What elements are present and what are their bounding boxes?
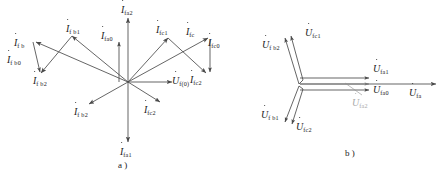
- label-ifb0-subscript: f b0: [10, 59, 21, 66]
- label-ifa1: Ifa1: [120, 147, 132, 158]
- label-uf0-subscript: f(0): [179, 80, 189, 87]
- label-ifb2-triangle-symbol: I: [33, 75, 36, 86]
- panel-a-caption: a ): [118, 160, 127, 170]
- label-ufc1-subscript: fc1: [312, 32, 321, 39]
- label-ufb1: Uf b1: [261, 110, 279, 121]
- label-ifc-symbol: I: [186, 26, 189, 37]
- label-ifb0-symbol: I: [7, 54, 10, 65]
- label-ifc1: Ifc1: [156, 25, 168, 36]
- label-ufa2-subscript: fa2: [359, 102, 368, 109]
- label-ufc2-subscript: fc2: [303, 126, 312, 133]
- phasor-dot-icon: [121, 142, 123, 144]
- phasor-dot-icon: [8, 50, 10, 52]
- phasor-dot-icon: [265, 35, 267, 37]
- label-ufa-symbol: U: [409, 87, 416, 98]
- figure-root: Ifa2 Ifa0 Ifa1 If b If b0 If b1 If b2 If…: [0, 0, 445, 181]
- panel-b-vectors: [285, 36, 436, 124]
- phasor-dot-icon: [122, 0, 124, 1]
- label-uf0: Uf(0): [172, 76, 189, 87]
- label-ifb1-symbol: I: [66, 23, 69, 34]
- label-uf0-symbol: U: [172, 75, 179, 86]
- label-ufc2-symbol: U: [296, 121, 303, 132]
- label-ufb1-subscript: f b1: [268, 114, 279, 121]
- label-ifb1: If b1: [66, 24, 80, 35]
- label-ifc2-triangle: Ifc2: [190, 75, 202, 86]
- phasor-dot-icon: [187, 22, 189, 24]
- label-ufb2: Uf b2: [262, 40, 280, 51]
- phasor-dot-icon: [376, 80, 378, 82]
- phasor-dot-icon: [308, 23, 310, 25]
- label-ifa0: Ifa0: [101, 31, 113, 42]
- vector-ifb2-lower: [89, 82, 128, 104]
- label-ifc: Ifc: [186, 27, 195, 38]
- label-ufb1-symbol: U: [261, 109, 268, 120]
- label-ifb2-triangle: If b2: [33, 76, 47, 87]
- phasor-dot-icon: [157, 20, 159, 22]
- phasor-dot-icon: [75, 102, 77, 104]
- vector-ifc2-triangle: [168, 38, 206, 73]
- label-ifb-subscript: f b: [17, 42, 24, 49]
- label-ifb0: If b0: [7, 55, 21, 66]
- vector-ifb2-triangle: [41, 36, 72, 73]
- label-ufa0: Ufa0: [373, 85, 389, 96]
- phasor-dot-icon: [67, 19, 69, 21]
- label-ifb2-lower: If b2: [74, 107, 88, 118]
- vector-ifc1: [128, 38, 168, 82]
- vector-ufc2: [292, 89, 303, 124]
- phasor-dot-icon: [355, 93, 357, 95]
- phasor-dot-icon: [34, 71, 36, 73]
- label-ufc2: Ufc2: [296, 122, 312, 133]
- phasor-dot-icon: [175, 71, 177, 73]
- label-ifb-symbol: I: [14, 37, 17, 48]
- label-ufa1-subscript: fa1: [380, 68, 389, 75]
- vector-ufb2: [285, 38, 299, 84]
- label-ifc0-symbol: I: [208, 37, 211, 48]
- label-ifc-subscript: fc: [189, 31, 194, 38]
- vector-ufc1: [291, 36, 303, 80]
- label-ifa2-subscript: fa2: [124, 9, 133, 16]
- phasor-dot-icon: [145, 100, 147, 102]
- label-ifa2-symbol: I: [121, 4, 124, 15]
- label-ufa0-symbol: U: [373, 84, 380, 95]
- label-ifb2-lower-subscript: f b2: [77, 111, 88, 118]
- label-ifc2-triangle-subscript: fc2: [193, 79, 202, 86]
- label-ifa0-subscript: fa0: [104, 35, 113, 42]
- ufa2-leader-line: [345, 83, 362, 95]
- label-ufb2-symbol: U: [262, 39, 269, 50]
- label-ufb2-subscript: f b2: [269, 44, 280, 51]
- label-ufa: Ufa: [409, 88, 421, 99]
- label-ifc0: Ifc0: [208, 38, 220, 49]
- phasor-dot-icon: [102, 26, 104, 28]
- phasor-dot-icon: [15, 33, 17, 35]
- phasor-dot-icon: [376, 59, 378, 61]
- label-ifb: If b: [14, 38, 25, 49]
- phasor-dot-icon: [299, 117, 301, 119]
- label-ifc1-symbol: I: [156, 24, 159, 35]
- vector-ifb0: [33, 42, 40, 72]
- label-ufa2: Ufa2: [352, 98, 368, 109]
- label-ifa1-symbol: I: [120, 146, 123, 157]
- label-ifc2-triangle-symbol: I: [190, 74, 193, 85]
- vector-ifb1: [72, 36, 128, 82]
- phasor-dot-icon: [209, 33, 211, 35]
- label-ifb2-triangle-subscript: f b2: [36, 80, 47, 87]
- label-ufa1-symbol: U: [373, 63, 380, 74]
- phasor-dot-icon: [264, 105, 266, 107]
- label-ufa1: Ufa1: [373, 64, 389, 75]
- label-ufa0-subscript: fa0: [380, 89, 389, 96]
- phasor-dot-icon: [412, 83, 414, 85]
- label-ufa2-symbol: U: [352, 97, 359, 108]
- vector-ufb1: [285, 86, 299, 122]
- label-ifc2-lower-symbol: I: [144, 104, 147, 115]
- label-ufa-subscript: fa: [416, 92, 421, 99]
- label-ifc2-lower-subscript: fc2: [147, 109, 156, 116]
- label-ifc2-lower: Ifc2: [144, 105, 156, 116]
- label-ufc1: Ufc1: [305, 28, 321, 39]
- label-ifb1-subscript: f b1: [69, 28, 80, 35]
- label-ifc1-subscript: fc1: [159, 29, 168, 36]
- label-ifc0-subscript: fc0: [211, 42, 220, 49]
- label-ifa2: Ifa2: [121, 5, 133, 16]
- label-ifb2-lower-symbol: I: [74, 106, 77, 117]
- phasor-dot-icon: [191, 70, 193, 72]
- label-ufc1-symbol: U: [305, 27, 312, 38]
